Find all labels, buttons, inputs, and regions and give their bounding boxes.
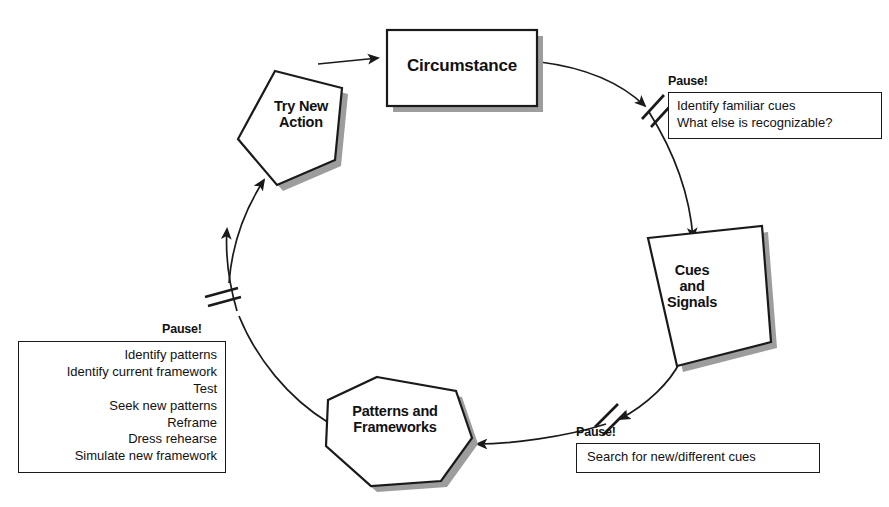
pause-line: Seek new patterns (27, 398, 217, 415)
cues-and-signals-shape[interactable] (648, 226, 771, 366)
arc-cues-to-patterns-segment-a (620, 362, 680, 419)
patterns-and-frameworks-shape[interactable] (326, 377, 472, 486)
pause-line: Simulate new framework (27, 448, 217, 465)
arc-circumstance-to-cues-segment-a (540, 62, 645, 106)
arc-patterns-to-action-segment-a (239, 316, 329, 423)
circumstance-shape[interactable] (387, 30, 537, 106)
arc-patterns-to-action-segment-c (229, 180, 264, 283)
pause-title-left: Pause! (162, 322, 202, 336)
pause-box-top-right: Identify familiar cues What else is reco… (668, 92, 882, 139)
pause-line: Dress rehearse (27, 431, 217, 448)
pause-box-left: Identify patterns Identify current frame… (18, 341, 226, 473)
diagram-canvas: Circumstance Try New Action Cues and Sig… (0, 0, 889, 507)
pause-line: Test (27, 381, 217, 398)
pause-line: Identify current framework (27, 364, 217, 381)
arc-action-to-circumstance (318, 58, 378, 64)
pause-box-bottom-right: Search for new/different cues (576, 443, 820, 473)
pause-line: What else is recognizable? (677, 115, 873, 132)
pause-title-bottom-right: Pause! (576, 425, 616, 439)
pause-line: Identify patterns (27, 347, 217, 364)
pause-line: Search for new/different cues (587, 449, 811, 466)
pause-title-top-right: Pause! (668, 74, 708, 88)
pause-line: Reframe (27, 415, 217, 432)
pause-line: Identify familiar cues (677, 98, 873, 115)
